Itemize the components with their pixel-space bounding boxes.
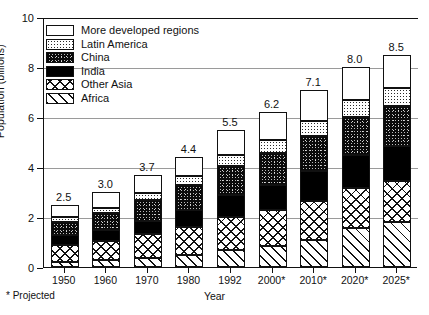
- bar-segment-more: [342, 67, 370, 100]
- bar-value-label: 5.5: [207, 117, 253, 128]
- bar-segment-latin: [217, 155, 245, 166]
- bar-segment-africa: [92, 260, 120, 267]
- legend-label: Africa: [81, 93, 109, 104]
- legend-label: China: [81, 52, 110, 63]
- bar-segment-india: [342, 155, 370, 188]
- bar-segment-india: [383, 146, 411, 181]
- bar-segment-china: [51, 222, 79, 236]
- plot-top-rule: [44, 18, 418, 19]
- bar-segment-more: [259, 112, 287, 140]
- bar-value-label: 4.4: [165, 144, 211, 155]
- legend-swatch-icon: [46, 52, 74, 63]
- bar-segment-more: [175, 157, 203, 176]
- x-tick-label: 1992: [207, 275, 253, 286]
- x-tick-mark: [105, 268, 106, 273]
- bar-segment-africa: [259, 246, 287, 267]
- bar-segment-asia: [92, 241, 120, 261]
- y-tick-label: 2: [8, 213, 34, 224]
- legend-item-africa[interactable]: Africa: [46, 92, 199, 106]
- legend-item-other-asia[interactable]: Other Asia: [46, 78, 199, 92]
- bar-segment-more: [217, 130, 245, 155]
- bar-2000[interactable]: [259, 112, 287, 267]
- x-tick-label: 1960: [82, 275, 128, 286]
- bar-segment-asia: [51, 245, 79, 262]
- chart-legend: More developed regionsLatin AmericaChina…: [46, 24, 199, 105]
- legend-swatch-icon: [46, 79, 74, 90]
- legend-item-latin-america[interactable]: Latin America: [46, 38, 199, 52]
- y-tick-label: 0: [8, 263, 34, 274]
- y-tick-label: 8: [8, 63, 34, 74]
- legend-item-more-developed-regions[interactable]: More developed regions: [46, 24, 199, 38]
- bar-segment-china: [300, 136, 328, 171]
- bar-segment-china: [342, 117, 370, 155]
- bar-2025[interactable]: [383, 55, 411, 268]
- bar-segment-latin: [175, 176, 203, 185]
- bar-2020[interactable]: [342, 67, 370, 267]
- x-tick-mark: [64, 268, 65, 273]
- bar-segment-asia: [217, 217, 245, 250]
- bar-segment-africa: [342, 228, 370, 267]
- bar-segment-latin: [51, 217, 79, 221]
- bar-segment-asia: [259, 210, 287, 246]
- bar-segment-more: [92, 192, 120, 208]
- y-tick-label: 10: [8, 13, 34, 24]
- bar-2010[interactable]: [300, 90, 328, 268]
- bar-segment-asia: [134, 234, 162, 258]
- legend-label: More developed regions: [81, 25, 199, 36]
- bar-1980[interactable]: [175, 157, 203, 267]
- bar-segment-latin: [92, 208, 120, 213]
- bar-segment-china: [217, 166, 245, 195]
- x-tick-label: 1980: [165, 275, 211, 286]
- legend-swatch-icon: [46, 66, 74, 77]
- y-tick-label: 4: [8, 163, 34, 174]
- bar-segment-china: [134, 200, 162, 221]
- x-tick-mark: [355, 268, 356, 273]
- bar-segment-india: [134, 221, 162, 235]
- bar-value-label: 2.5: [41, 192, 87, 203]
- bar-segment-china: [383, 106, 411, 146]
- bar-1992[interactable]: [217, 130, 245, 268]
- bar-1970[interactable]: [134, 175, 162, 268]
- bar-value-label: 3.0: [82, 179, 128, 190]
- y-tick-mark: [37, 268, 43, 269]
- x-tick-label: 1950: [41, 275, 87, 286]
- bar-segment-asia: [342, 188, 370, 229]
- x-tick-mark: [230, 268, 231, 273]
- bar-segment-india: [175, 210, 203, 227]
- bar-value-label: 8.5: [373, 42, 419, 53]
- bar-segment-africa: [300, 240, 328, 268]
- bar-segment-more: [300, 90, 328, 122]
- x-tick-label: 2020*: [332, 275, 378, 286]
- bar-segment-africa: [51, 262, 79, 268]
- bar-segment-asia: [300, 201, 328, 240]
- bar-segment-latin: [342, 100, 370, 117]
- x-tick-mark: [272, 268, 273, 273]
- bar-segment-india: [92, 230, 120, 241]
- bar-segment-more: [134, 175, 162, 194]
- bar-segment-latin: [134, 193, 162, 200]
- bar-segment-india: [259, 185, 287, 210]
- population-stacked-bar-chart: Population (billions) 0246810 More devel…: [0, 0, 429, 315]
- legend-item-china[interactable]: China: [46, 51, 199, 65]
- y-axis-title: Population (billions): [0, 44, 6, 138]
- bar-1960[interactable]: [92, 192, 120, 267]
- legend-item-india[interactable]: India: [46, 65, 199, 79]
- legend-swatch-icon: [46, 93, 74, 104]
- x-tick-label: 1970: [124, 275, 170, 286]
- bar-value-label: 8.0: [332, 54, 378, 65]
- bar-segment-india: [51, 235, 79, 244]
- legend-label: Latin America: [81, 39, 148, 50]
- bar-segment-latin: [300, 121, 328, 136]
- bar-value-label: 3.7: [124, 162, 170, 173]
- y-tick-label: 6: [8, 113, 34, 124]
- bar-value-label: 7.1: [290, 77, 336, 88]
- legend-swatch-icon: [46, 25, 74, 36]
- bar-segment-india: [217, 195, 245, 217]
- bar-segment-africa: [175, 255, 203, 267]
- legend-swatch-icon: [46, 39, 74, 50]
- bar-segment-more: [51, 205, 79, 218]
- bar-segment-china: [259, 153, 287, 185]
- bar-1950[interactable]: [51, 205, 79, 268]
- bar-segment-china: [92, 213, 120, 229]
- x-tick-mark: [147, 268, 148, 273]
